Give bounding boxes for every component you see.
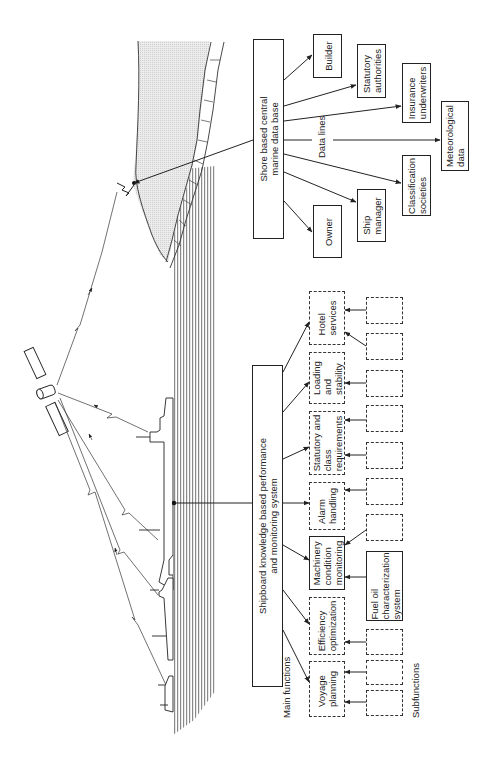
loading-stability-label: Loading and stability	[311, 361, 344, 395]
main-function-hotel-services: Hotel services	[309, 291, 345, 345]
builder-label: Builder	[322, 41, 333, 71]
meteorological-data-box: Meteorological data	[441, 101, 469, 171]
satellite	[24, 347, 68, 435]
ship-manager-box: Ship manager	[357, 189, 386, 242]
main-function-statutory-class: Statutory and class requirements	[309, 411, 345, 475]
machinery-monitoring-label: Machinery condition monitoring	[311, 541, 344, 585]
sea	[173, 166, 216, 735]
subfunction-box	[366, 514, 403, 541]
subfunction-box	[366, 442, 403, 469]
voyage-planning-label: Voyage planning	[316, 671, 338, 707]
subfunction-box	[366, 405, 403, 432]
subfunction-box	[366, 297, 403, 324]
hotel-services-label: Hotel services	[316, 301, 338, 336]
ships	[136, 398, 173, 712]
main-function-loading-stability: Loading and stability	[309, 352, 345, 404]
efficiency-optimization-label: Efficiency optimization	[316, 601, 338, 652]
alarm-handling-label: Alarm handling	[316, 488, 338, 524]
subfunction-box	[366, 629, 403, 655]
subfunction-fuel-oil-characterization: Fuel oil characterization system	[366, 551, 403, 621]
meteorological-data-label: Meteorological data	[444, 105, 466, 167]
data-lines-label: Data lines	[316, 116, 327, 158]
insurance-underwriters-label: Insurance underwriters	[406, 67, 428, 119]
statutory-class-label: Statutory and class requirements	[311, 415, 344, 472]
subfunction-box	[366, 370, 403, 397]
shipboard-system-label: Shipboard knowledge based performance an…	[257, 438, 279, 614]
shipboard-system-box: Shipboard knowledge based performance an…	[252, 365, 283, 687]
statutory-authorities-label: Statutory authorities	[361, 49, 383, 93]
main-function-links	[283, 322, 309, 682]
radio-links	[55, 192, 166, 685]
subfunction-box	[366, 690, 403, 716]
fuel-oil-characterization-label: Fuel oil characterization system	[368, 552, 401, 619]
owner-label: Owner	[322, 218, 333, 246]
main-function-efficiency-optimization: Efficiency optimization	[309, 597, 345, 655]
builder-box: Builder	[313, 34, 342, 78]
subfunction-box	[366, 660, 403, 685]
shore-central-db-label: Shore based central marine data base	[258, 96, 280, 181]
ship-manager-label: Ship manager	[361, 197, 383, 235]
insurance-underwriters-box: Insurance underwriters	[402, 63, 431, 123]
subfunction-box	[366, 333, 403, 360]
subfunction-links	[345, 310, 366, 702]
main-functions-label: Main functions	[281, 657, 292, 718]
main-function-voyage-planning: Voyage planning	[309, 661, 345, 717]
subfunctions-label: Subfunctions	[410, 663, 421, 718]
classification-societies-box: Classification societies	[402, 155, 431, 216]
subfunction-box	[366, 478, 403, 505]
shore-antenna	[117, 181, 136, 196]
main-function-machinery-monitoring: Machinery condition monitoring	[309, 536, 345, 590]
classification-societies-label: Classification societies	[406, 158, 428, 214]
owner-box: Owner	[313, 205, 342, 258]
statutory-authorities-box: Statutory authorities	[357, 44, 386, 98]
main-function-alarm-handling: Alarm handling	[309, 482, 345, 530]
shore-central-db-box: Shore based central marine data base	[253, 39, 284, 239]
